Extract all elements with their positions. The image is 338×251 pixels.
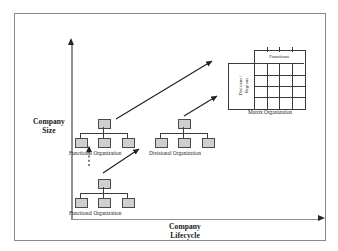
node-functional-large-label: Functional Organization <box>69 150 121 157</box>
node-functional-small[interactable]: Functional Organization <box>73 179 135 211</box>
node-matrix-label: Matrix Organization <box>248 109 292 115</box>
org-node-box-child-1 <box>75 138 88 148</box>
matrix-gridline-h-2 <box>255 86 305 87</box>
node-functional-small-label: Functional Organization <box>69 210 121 217</box>
y-axis-label-line2: Size <box>23 126 75 135</box>
matrix-gridline-h-3 <box>255 97 305 98</box>
org-node-box-child-2 <box>98 138 111 148</box>
org-node-box-child-3 <box>122 198 135 208</box>
org-node-box-child-3 <box>202 138 215 148</box>
matrix-row-header-text: Divisions / Regions <box>230 63 257 108</box>
y-axis-label: Company Size <box>23 117 75 135</box>
x-axis-label-line1: Company <box>145 222 225 231</box>
org-node-box-child-1 <box>155 138 168 148</box>
x-axis-label: Company Lifecycle <box>145 222 225 240</box>
node-divisional-label: Divisional Organization <box>149 150 201 157</box>
org-node-box-child-1 <box>75 198 88 208</box>
y-axis-arrowhead-icon <box>68 38 74 45</box>
org-node-box-child-3 <box>122 138 135 148</box>
matrix-gridline-h-1 <box>255 75 305 76</box>
y-axis-label-line1: Company <box>23 117 75 126</box>
node-divisional[interactable]: Divisional Organization <box>153 119 215 151</box>
connector-divisional-to-matrix <box>184 96 217 116</box>
matrix-row-header: Divisions / Regions <box>228 63 256 110</box>
matrix-row-header-line2: Regions <box>244 78 249 93</box>
matrix-row-header-line1: Divisions / <box>238 75 243 95</box>
org-node-box-child-2 <box>98 198 111 208</box>
diagram-frame: Company Size Company Lifecycle <box>14 13 326 241</box>
matrix-column-header-text: Functions <box>269 54 289 59</box>
x-axis-arrowhead-icon <box>318 215 325 221</box>
org-node-box-child-2 <box>178 138 191 148</box>
x-axis-label-line2: Lifecycle <box>145 231 225 240</box>
org-node-box-root <box>98 119 111 129</box>
node-functional-large[interactable]: Functional Organization <box>73 119 135 151</box>
node-matrix[interactable]: Divisions / Regions Functions Matrix O <box>228 50 304 108</box>
org-node-box-root <box>178 119 191 129</box>
x-axis <box>71 219 321 221</box>
org-node-box-root <box>98 179 111 189</box>
matrix-column-header: Functions <box>254 50 304 64</box>
connector-functional-to-matrix <box>116 61 212 119</box>
diagram-canvas: Company Size Company Lifecycle <box>0 0 338 251</box>
